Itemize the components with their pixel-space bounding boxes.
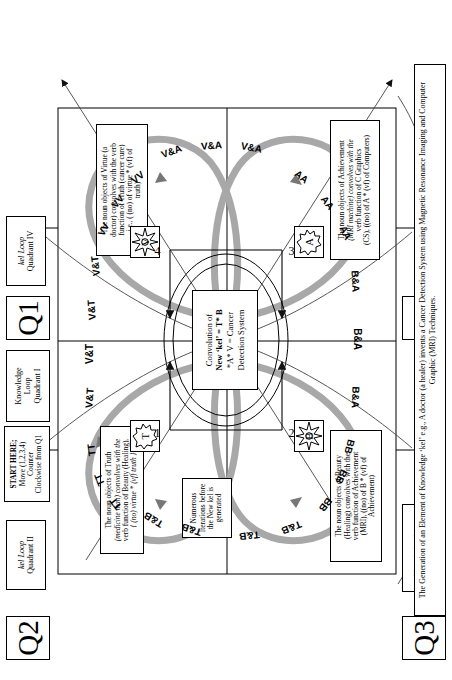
quadrant-number-1: 1 xyxy=(155,426,161,441)
q4-line2: Quadrant IV xyxy=(26,231,35,272)
arc-label-vt-c: V&T xyxy=(85,300,97,321)
note-start-here: START HERE; Move (1,2,3,4) Counter Clock… xyxy=(4,426,50,502)
central-l4: Detection System xyxy=(236,310,246,371)
central-l2: New ‘kel’ = T* B xyxy=(214,309,224,370)
q1-line2: Loop xyxy=(23,377,32,394)
arc-label-aa-a: AA xyxy=(292,168,310,186)
quadrant-number-3: 3 xyxy=(289,244,295,259)
arc-label-ba-a: B&A xyxy=(350,270,362,292)
label-kel-loop-q4: kel Loop Quadrant IV xyxy=(6,216,46,286)
label-knowledge-loop-q1: Knowledge Loop Quadrant I xyxy=(6,350,50,422)
star-b-icon: B xyxy=(295,421,323,451)
arc-label-va-c: V&A xyxy=(240,140,263,155)
badge-q2-label: Q2 xyxy=(12,620,44,655)
star-t-letter: T xyxy=(139,432,151,439)
arc-label-ba-c: B&A xyxy=(350,386,362,408)
badge-q2: Q2 xyxy=(6,616,50,660)
central-convolution-box: Convolution of New ‘kel’ = T* B *A* V = … xyxy=(192,290,258,390)
q2-line2: Quadrant II xyxy=(26,536,35,574)
quadrant-number-2: 2 xyxy=(289,426,295,441)
arc-label-tb-b: T&B xyxy=(142,510,165,530)
note-ach-l4: (CS), ((no) of A * (vf) of Computers) xyxy=(362,135,371,245)
arc-label-tt-c: TT xyxy=(85,443,98,457)
central-l1: Convolution of xyxy=(204,314,214,366)
q4-line1: kel Loop xyxy=(17,237,26,265)
arc-label-vt-b: V&T xyxy=(84,344,95,364)
note-beauty-l5: Achievement) xyxy=(367,475,376,517)
figure-canvas: Q1 Q4 Q2 Q3 Knowledge Loop Quadrant I ke… xyxy=(0,0,452,680)
arc-label-vt-d: V&T xyxy=(89,255,102,276)
central-l3: *A* V = Cancer xyxy=(225,312,235,368)
star-b-letter: B xyxy=(303,432,315,439)
star-v-letter: V xyxy=(139,238,151,246)
figure-stage: Q1 Q4 Q2 Q3 Knowledge Loop Quadrant I ke… xyxy=(0,0,452,680)
arc-label-ba-b: B&A xyxy=(352,328,363,350)
arc-label-va-a: V&A xyxy=(160,143,184,161)
quadrant-number-4: 4 xyxy=(155,244,161,259)
star-a-icon: A xyxy=(295,227,323,257)
note-beauty: The noun objects of Beauty (Healing) con… xyxy=(330,430,382,562)
start-line2: Move (1,2,3,4) Counter xyxy=(18,442,35,486)
arc-label-vt-a: V&T xyxy=(83,388,95,409)
arc-label-tb-c: T&B xyxy=(280,519,303,537)
arc-label-va-b: V&A xyxy=(201,139,223,151)
star-icon-a-box: A xyxy=(294,226,324,258)
q1-line3: Quadrant I xyxy=(33,369,42,404)
figure-caption-text: The Generation of an Element of Knowledg… xyxy=(418,82,437,599)
figure-caption: The Generation of an Element of Knowledg… xyxy=(414,64,446,616)
star-a-letter: A xyxy=(303,238,315,246)
badge-q1: Q1 xyxy=(6,296,50,340)
label-kel-loop-q2: kel Loop Quadrant II xyxy=(6,520,46,590)
badge-q1-label: Q1 xyxy=(12,300,44,335)
star-icon-b-box: B xyxy=(294,420,324,452)
badge-q3-label: Q3 xyxy=(408,620,440,655)
note-truth-l4: { (no) virtue * (vf) truth } xyxy=(129,453,138,528)
q2-line1: kel Loop xyxy=(17,541,26,569)
q1-line1: Knowledge xyxy=(14,367,23,404)
note-achievement: The noun objects of Achievement (MRI mac… xyxy=(330,120,380,260)
iter-line4: generated xyxy=(214,494,223,523)
badge-q3: Q3 xyxy=(402,616,446,660)
start-line3: Clockwise from Q1 xyxy=(34,435,43,493)
arc-label-tb-d: T&B xyxy=(239,529,261,542)
